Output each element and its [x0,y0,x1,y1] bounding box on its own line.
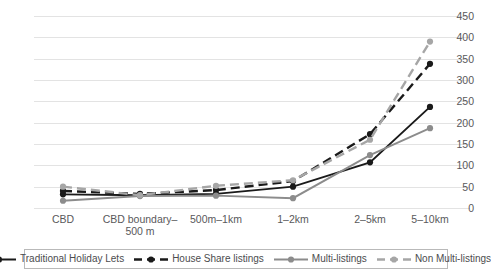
series-line [63,64,430,194]
series-line [63,42,430,196]
series-layer [0,0,474,232]
legend-item-4[interactable]: Non Multi-listings [376,254,491,265]
data-point-marker [290,177,296,183]
series-line [63,128,430,201]
data-point-marker [367,137,373,143]
legend-item-3[interactable]: Multi-listings [273,254,367,265]
data-point-marker [427,125,433,131]
legend-item-label: House Share listings [172,254,264,264]
data-point-marker [427,61,433,67]
chart-legend: Traditional Holiday LetsHouse Share list… [24,249,448,269]
legend-key-icon [376,254,412,265]
legend-item-2[interactable]: House Share listings [133,254,264,265]
series-line [63,107,430,195]
data-point-marker [367,152,373,158]
data-point-marker [213,193,219,199]
series-3 [60,125,433,204]
data-point-marker [427,104,433,110]
data-point-marker [427,39,433,45]
legend-key-icon [0,254,17,265]
legend-item-label: Non Multi-listings [415,254,491,264]
legend-item-1[interactable]: Traditional Holiday Lets [0,254,124,265]
legend-key-icon [133,254,169,265]
plot-area: 050100150200250300350400450 CBDCBD bound… [0,0,474,232]
series-4 [60,39,433,199]
legend-item-label: Multi-listings [312,254,367,264]
x-axis-tick-label: 5–10km [383,213,477,225]
data-point-marker [290,184,296,190]
series-2 [60,61,433,197]
legend-key-icon [273,254,309,265]
data-point-marker [60,198,66,204]
data-point-marker [367,159,373,165]
data-point-marker [213,183,219,189]
data-point-marker [137,192,143,198]
legend-item-label: Traditional Holiday Lets [20,254,124,264]
data-point-marker [60,184,66,190]
data-point-marker [290,195,296,201]
